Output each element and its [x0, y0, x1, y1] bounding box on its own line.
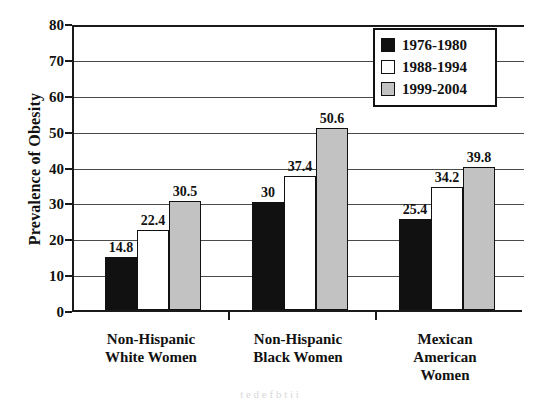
x-tick-mark-1 [228, 312, 230, 320]
y-tick-label-0: 0 [8, 304, 64, 321]
bar-value-label-1-1: 37.4 [288, 159, 313, 175]
obesity-prevalence-bar-chart: Prevalence of Obesity 01020304050607080 … [0, 0, 539, 404]
legend-item-2: 1999-2004 [381, 78, 489, 100]
y-tick-mark-70 [65, 60, 72, 62]
x-tick-mark-2 [375, 312, 377, 320]
y-tick-label-50: 50 [8, 124, 64, 141]
legend-label-1: 1988-1994 [402, 59, 467, 76]
y-tick-label-10: 10 [8, 268, 64, 285]
bar-0-0 [105, 257, 137, 310]
category-label-2: Mexican American Women [370, 330, 520, 384]
legend-item-0: 1976-1980 [381, 34, 489, 56]
gridline-50 [74, 133, 524, 134]
bar-2-2 [463, 167, 495, 310]
category-label-1: Non-Hispanic Black Women [223, 330, 373, 366]
y-tick-mark-50 [65, 132, 72, 134]
bar-value-label-0-0: 14.8 [109, 240, 134, 256]
bar-value-label-0-2: 30.5 [173, 184, 198, 200]
y-tick-label-20: 20 [8, 232, 64, 249]
bar-1-0 [252, 202, 284, 310]
bar-value-label-2-1: 34.2 [435, 170, 460, 186]
bar-1-2 [316, 128, 348, 310]
bar-0-1 [137, 230, 169, 310]
y-tick-mark-30 [65, 203, 72, 205]
bar-value-label-2-0: 25.4 [403, 202, 428, 218]
y-tick-mark-0 [65, 311, 72, 313]
bar-2-0 [399, 219, 431, 310]
y-tick-label-30: 30 [8, 196, 64, 213]
bar-value-label-0-1: 22.4 [141, 213, 166, 229]
legend-label-2: 1999-2004 [402, 81, 467, 98]
bar-value-label-1-2: 50.6 [320, 111, 345, 127]
category-label-0: Non-Hispanic White Women [76, 330, 226, 366]
y-tick-mark-80 [65, 24, 72, 26]
bar-value-label-1-0: 30 [261, 185, 275, 201]
bar-1-1 [284, 176, 316, 310]
bar-value-label-2-2: 39.8 [467, 150, 492, 166]
legend-swatch-icon-1988-1994 [381, 60, 395, 74]
y-tick-label-60: 60 [8, 88, 64, 105]
y-tick-mark-10 [65, 275, 72, 277]
legend-label-0: 1976-1980 [402, 37, 467, 54]
legend-item-1: 1988-1994 [381, 56, 489, 78]
gridline-80 [74, 25, 524, 27]
y-tick-mark-60 [65, 96, 72, 98]
y-tick-mark-40 [65, 168, 72, 170]
y-tick-label-80: 80 [8, 17, 64, 34]
chart-legend: 1976-1980 1988-1994 1999-2004 [373, 28, 497, 107]
bar-2-1 [431, 187, 463, 310]
legend-swatch-icon-1976-1980 [381, 38, 395, 52]
y-tick-mark-20 [65, 239, 72, 241]
y-tick-label-40: 40 [8, 160, 64, 177]
page-bleed-through-text: t e d e f b t i i [0, 388, 539, 404]
y-tick-label-70: 70 [8, 52, 64, 69]
legend-swatch-icon-1999-2004 [381, 82, 395, 96]
bar-0-2 [169, 201, 201, 310]
